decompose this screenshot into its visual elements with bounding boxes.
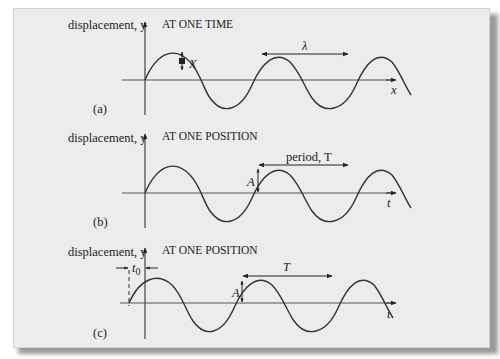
y-axis-label: displacement, y (68, 131, 147, 145)
subfigure-title: AT ONE POSITION (162, 244, 258, 256)
x-axis-var: x (390, 83, 397, 97)
subfigure-title: AT ONE POSITION (162, 130, 258, 142)
period-label: T (283, 260, 291, 274)
t-axis-var: t (387, 196, 391, 210)
point-label: X (188, 57, 198, 71)
subfigure-label: (a) (93, 102, 107, 116)
subfigure-b: displacement, y AT ONE POSITION t A peri… (68, 130, 411, 229)
subfigure-c: displacement, y AT ONE POSITION t t0 A T… (68, 244, 396, 340)
amplitude-label: A (231, 286, 240, 300)
subfigure-a: displacement, y AT ONE TIME x X λ (a) (68, 18, 411, 116)
wave-diagram: displacement, y AT ONE TIME x X λ (a) di… (0, 0, 500, 359)
offset-label: t0 (132, 261, 140, 277)
period-label: period, T (286, 150, 332, 164)
subfigure-label: (b) (93, 215, 108, 229)
particle-marker-icon (179, 58, 185, 64)
y-axis-label: displacement, y (68, 18, 147, 32)
subfigure-title: AT ONE TIME (162, 18, 233, 30)
y-axis-label: displacement, y (68, 245, 147, 259)
wave-curve (129, 278, 393, 331)
subfigure-label: (c) (93, 326, 107, 340)
amplitude-label: A (246, 175, 255, 189)
wavelength-label: λ (301, 39, 308, 53)
wave-curve (145, 166, 411, 221)
